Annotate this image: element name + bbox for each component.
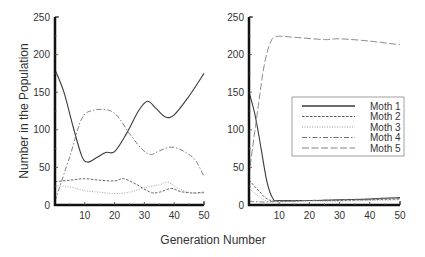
series-moth-3 [55,182,204,193]
x-tick-label: 10 [274,210,286,221]
y-tick-label: 200 [227,49,244,60]
series-moth-1 [55,70,204,162]
y-tick-label: 50 [39,162,51,173]
y-tick-label: 0 [238,200,244,211]
x-tick-label: 50 [198,210,210,221]
y-tick-label: 250 [33,12,50,23]
x-tick-label: 20 [304,210,316,221]
moth-population-chart: 0501001502002501020304050 05010015020025… [0,0,425,257]
legend-label: Moth 4 [370,132,401,143]
y-tick-label: 50 [233,162,245,173]
x-tick-label: 10 [79,210,91,221]
legend-label: Moth 2 [370,111,401,122]
y-tick-label: 150 [227,87,244,98]
y-tick-label: 200 [33,49,50,60]
y-tick-label: 100 [227,124,244,135]
x-tick-label: 20 [109,210,121,221]
x-tick-label: 40 [169,210,181,221]
legend: Moth 1Moth 2Moth 3Moth 4Moth 5 [292,97,404,156]
series-moth-2 [55,179,204,193]
y-tick-label: 250 [227,12,244,23]
series-moth-4 [55,109,204,201]
x-axis-title: Generation Number [160,233,265,247]
legend-label: Moth 5 [370,143,401,154]
y-tick-label: 150 [33,87,50,98]
x-tick-label: 30 [334,210,346,221]
x-tick-label: 40 [364,210,376,221]
y-tick-label: 100 [33,124,50,135]
x-tick-label: 30 [139,210,151,221]
y-tick-label: 0 [44,200,50,211]
y-axis-title: Number in the Population [17,43,31,178]
series-moth-2 [249,180,400,201]
legend-label: Moth 3 [370,122,401,133]
legend-label: Moth 1 [370,101,401,112]
x-tick-label: 50 [394,210,406,221]
left-plot-panel: 0501001502002501020304050 [33,12,210,222]
